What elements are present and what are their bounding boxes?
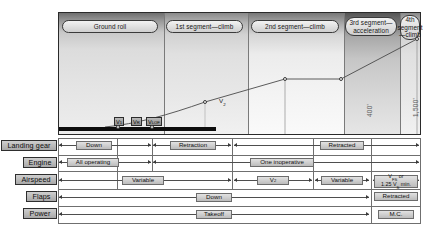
cell-text: M.C.: [389, 211, 402, 218]
cell-airspeed-variable-1: Variable: [122, 176, 164, 185]
cell-text: One inoperative: [260, 159, 304, 166]
row-label-text: Engine: [29, 158, 52, 167]
segment-label-second: 2nd segment—climb: [251, 20, 339, 33]
path-node-400ft-end: [339, 77, 343, 81]
altitude-label-1500: 1,500': [412, 98, 419, 117]
cell-flaps-retracted: Retracted: [374, 192, 418, 201]
cell-text: Down: [206, 194, 222, 201]
path-node-v2: [203, 100, 207, 104]
altitude-label-400: 400': [366, 104, 373, 117]
cell-power-takeoff: Takeoff: [196, 210, 232, 219]
table-divider-right: [420, 138, 421, 223]
row-label-engine: Engine: [23, 157, 57, 168]
row-label-power: Power: [23, 208, 57, 219]
cell-text: Retracted: [329, 142, 356, 149]
row-label-text: Power: [30, 209, 51, 218]
cell-gear-retraction: Retraction: [170, 141, 216, 150]
cell-power-mc: M.C.: [378, 210, 414, 219]
cell-airspeed-v2: V2: [257, 176, 289, 185]
cell-text: Takeoff: [204, 211, 224, 218]
row-label-text: Landing gear: [7, 141, 50, 150]
table-rule-1: [58, 155, 421, 156]
cell-gear-retracted: Retracted: [320, 141, 364, 150]
row-label-landing-gear: Landing gear: [1, 140, 57, 151]
row-label-text: Flaps: [32, 192, 50, 201]
speed-sub: R: [137, 120, 140, 125]
cell-sub: 2: [274, 179, 276, 183]
row-label-text: Airspeed: [21, 175, 50, 184]
segment-label-text: 2nd segment—climb: [265, 23, 325, 31]
segment-label-first: 1st segment—climb: [166, 20, 243, 33]
segment-label-fourth: 4th segment—climb: [400, 15, 420, 40]
speed-sub: 1: [120, 120, 122, 125]
path-node-vlof: [150, 125, 154, 129]
speed-sub: 2: [223, 102, 225, 107]
cell-engine-all-operating: All operating: [67, 158, 119, 167]
vfs-line-2: 1.25 VS min.: [381, 182, 411, 189]
table-rule-2: [58, 171, 421, 172]
segment-label-text: Ground roll: [94, 23, 127, 31]
path-node-v1: [116, 125, 120, 129]
altitude-text: 400': [366, 104, 373, 117]
path-node-400ft: [283, 77, 287, 81]
segment-label-text: 3rd segment—acceleration: [348, 19, 394, 34]
speed-marker-vr: VR: [131, 117, 142, 126]
cell-flaps-down: Down: [196, 193, 232, 202]
table-rule-3: [58, 189, 421, 190]
speed-marker-vlof: VLOF: [146, 117, 162, 126]
table-rule-bottom: [58, 223, 421, 224]
configuration-table: Landing gear Engine Airspeed Flaps Power…: [0, 138, 423, 226]
cell-text: Down: [86, 142, 102, 149]
cell-airspeed-vfs: VFS or 1.25 VS min.: [374, 175, 418, 188]
cell-text: Variable: [331, 177, 353, 184]
segment-label-ground-roll: Ground roll: [62, 20, 158, 33]
segment-label-text: 1st segment—climb: [176, 23, 234, 31]
cell-text: Variable: [132, 177, 154, 184]
cell-text: Retraction: [179, 142, 207, 149]
table-divider-5: [371, 138, 372, 223]
cell-text: All operating: [76, 159, 110, 166]
segment-label-text: 4th segment—climb: [397, 16, 422, 39]
takeoff-profile-diagram: Ground roll 1st segment—climb 2nd segmen…: [0, 0, 423, 228]
segment-label-third: 3rd segment—acceleration: [345, 17, 397, 36]
row-label-airspeed: Airspeed: [15, 174, 57, 185]
table-rule-top: [58, 138, 421, 139]
cell-airspeed-variable-2: Variable: [321, 176, 363, 185]
table-rule-4: [58, 206, 421, 207]
cell-text: Retracted: [383, 193, 410, 200]
runway-strip: [59, 127, 216, 131]
climb-path-fourth: [341, 39, 417, 79]
row-label-flaps: Flaps: [26, 191, 57, 202]
speed-marker-v2: V2: [219, 97, 226, 106]
altitude-text: 1,500': [412, 98, 419, 117]
cell-engine-one-inoperative: One inoperative: [250, 158, 314, 167]
cell-gear-down: Down: [76, 141, 112, 150]
